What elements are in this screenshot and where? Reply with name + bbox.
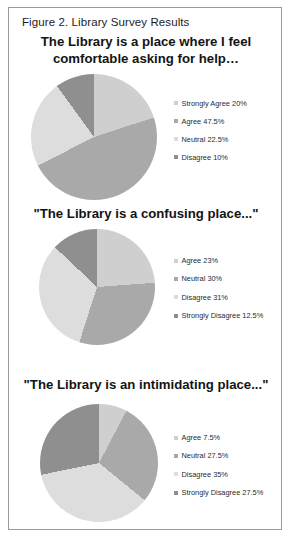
pie-chart-2 [39,229,155,345]
legend-item: Agree 7.5% [174,434,263,441]
legend-label: Disagree 31% [182,294,228,301]
figure-caption: Figure 2. Library Survey Results [22,16,189,28]
legend-item: Disagree 31% [174,294,263,301]
legend-item: Disagree 35% [174,471,263,478]
legend-item: Neutral 27.5% [174,452,263,459]
chart-body-2: Agree 23% Neutral 30% Disagree 31% Stron… [9,223,282,348]
figure-frame: Figure 2. Library Survey Results The Lib… [8,7,282,530]
chart-legend-1: Strongly Agree 20% Agree 47.5% Neutral 2… [174,100,247,161]
pie-chart-1 [31,74,157,200]
chart-title-1: The Library is a place where I feel comf… [9,34,282,68]
legend-item: Agree 47.5% [174,118,247,125]
legend-label: Agree 23% [182,257,219,264]
chart-block-2: "The Library is a confusing place..." Ag… [9,206,282,348]
legend-label: Strongly Agree 20% [182,100,247,107]
legend-label: Agree 7.5% [182,434,221,441]
pie-chart-3 [40,404,158,522]
legend-label: Disagree 35% [182,471,228,478]
chart-block-1: The Library is a place where I feel comf… [9,34,282,193]
legend-label: Neutral 27.5% [182,452,229,459]
chart-title-3: "The Library is an intimidating place...… [9,377,282,394]
chart-legend-3: Agree 7.5% Neutral 27.5% Disagree 35% St… [174,434,263,497]
chart-body-1: Strongly Agree 20% Agree 47.5% Neutral 2… [9,68,282,193]
legend-swatch-icon [174,295,178,299]
chart-block-3: "The Library is an intimidating place...… [9,377,282,524]
legend-swatch-icon [174,472,178,476]
legend-item: Neutral 22.5% [174,136,247,143]
legend-swatch-icon [174,436,178,440]
legend-label: Disagree 10% [182,154,228,161]
legend-label: Agree 47.5% [182,118,225,125]
legend-swatch-icon [174,119,178,123]
legend-item: Strongly Disagree 27.5% [174,489,263,496]
legend-item: Strongly Disagree 12.5% [174,312,263,319]
legend-swatch-icon [174,314,178,318]
legend-swatch-icon [174,454,178,458]
legend-label: Strongly Disagree 27.5% [182,489,264,496]
chart-legend-2: Agree 23% Neutral 30% Disagree 31% Stron… [174,257,263,320]
legend-item: Disagree 10% [174,154,247,161]
chart-body-3: Agree 7.5% Neutral 27.5% Disagree 35% St… [9,394,282,524]
legend-swatch-icon [174,259,178,263]
legend-label: Neutral 30% [182,275,223,282]
legend-label: Neutral 22.5% [182,136,229,143]
legend-swatch-icon [174,155,178,159]
legend-swatch-icon [174,137,178,141]
legend-item: Neutral 30% [174,275,263,282]
legend-swatch-icon [174,101,178,105]
legend-label: Strongly Disagree 12.5% [182,312,264,319]
legend-item: Strongly Agree 20% [174,100,247,107]
legend-swatch-icon [174,491,178,495]
legend-item: Agree 23% [174,257,263,264]
chart-title-2: "The Library is a confusing place..." [9,206,282,223]
legend-swatch-icon [174,277,178,281]
